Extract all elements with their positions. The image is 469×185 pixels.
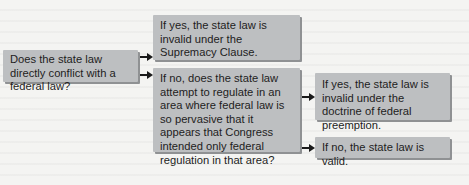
arrow-to-no [140, 74, 150, 76]
question-box: Does the state law directly conflict wit… [3, 50, 138, 82]
state-law-valid-box: If no, the state law is valid. [315, 137, 450, 158]
arrow-to-valid [302, 147, 312, 149]
federal-preemption-box: If yes, the state law is invalid under t… [315, 73, 450, 120]
pervasive-regulation-box: If no, does the state law attempt to reg… [153, 68, 300, 152]
yes-branch-text: If yes, the state law is invalid under t… [160, 19, 267, 58]
arrow-to-yes [140, 56, 150, 58]
supremacy-clause-box: If yes, the state law is invalid under t… [153, 15, 300, 60]
no-branch-text: If no, does the state law attempt to reg… [160, 72, 284, 166]
arrow-to-preemption [302, 96, 312, 98]
